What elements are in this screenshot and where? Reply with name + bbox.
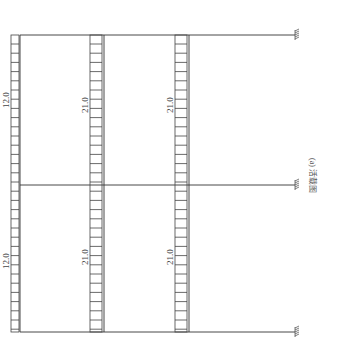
load-label: 21.0 (165, 97, 175, 113)
frame-drawing (0, 0, 342, 344)
diagram-canvas: 12.0 12.0 21.0 21.0 21.0 21.0 (a) 活载图 (0, 0, 342, 344)
load-label: 12.0 (1, 253, 11, 269)
load-label: 21.0 (80, 97, 90, 113)
load-label: 21.0 (80, 249, 90, 265)
diagram-caption: (a) 活载图 (308, 158, 319, 193)
load-label: 12.0 (1, 92, 11, 108)
load-label: 21.0 (165, 249, 175, 265)
